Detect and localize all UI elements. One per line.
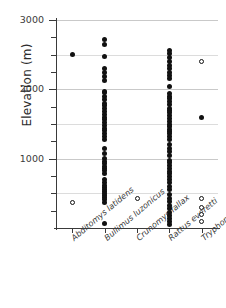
data-point-open (135, 196, 140, 201)
y-axis-tick-label: 1000 (20, 153, 44, 164)
data-point-filled (167, 84, 172, 89)
y-axis-tick-minor (51, 107, 56, 108)
y-axis-tick-minor (51, 176, 56, 177)
gridline (56, 20, 218, 21)
y-axis-tick-major (49, 89, 56, 90)
y-axis-line (56, 18, 57, 230)
y-axis-tick-minor (51, 37, 56, 38)
y-axis-tick-minor (51, 141, 56, 142)
gridline (56, 159, 218, 160)
gridline-minor (56, 124, 218, 125)
elevation-scatter-figure: Elevation (m) 300020001000Abditomys lati… (0, 0, 226, 308)
data-point-filled (167, 153, 172, 158)
data-point-filled (102, 37, 107, 42)
data-point-filled (102, 42, 107, 47)
y-axis-tick-label: 2000 (20, 83, 44, 94)
y-axis-tick-minor (51, 211, 56, 212)
data-point-filled (102, 200, 107, 205)
gridline-minor (56, 193, 218, 194)
data-point-filled (70, 52, 75, 57)
data-point-filled (167, 137, 172, 142)
y-axis-tick-minor (51, 124, 56, 125)
y-axis-tick-minor (51, 72, 56, 73)
data-point-filled (102, 54, 107, 59)
y-axis-tick-major (49, 20, 56, 21)
y-axis-tick-label: 3000 (20, 14, 44, 25)
gridline-minor (56, 55, 218, 56)
gridline (56, 89, 218, 90)
data-point-filled (199, 115, 204, 120)
data-point-filled (102, 137, 107, 142)
y-axis-tick-major (49, 159, 56, 160)
data-point-filled (167, 222, 172, 227)
y-axis-tick-minor (51, 193, 56, 194)
data-point-open (70, 200, 75, 205)
y-axis-tick-minor (51, 55, 56, 56)
